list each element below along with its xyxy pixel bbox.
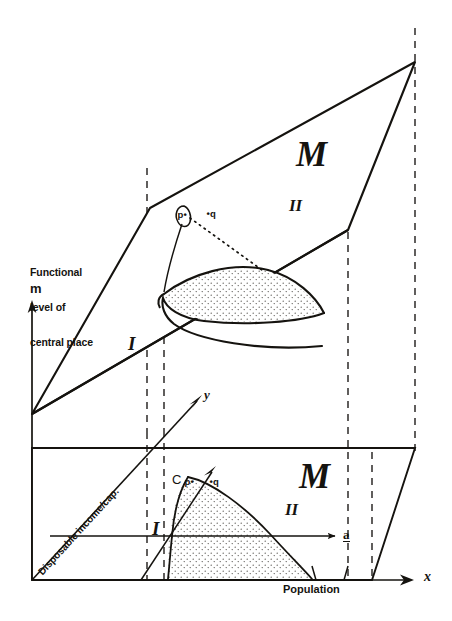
lower-contour-label-C: C xyxy=(172,473,181,488)
m-axis-symbol: m xyxy=(30,282,42,297)
upper-surface-label-M: M xyxy=(296,135,326,174)
m-axis-description: Functional level of central place xyxy=(30,243,93,372)
upper-point-q-label: •q xyxy=(196,198,216,230)
lower-point-q-text: q xyxy=(213,476,219,487)
lower-point-q-label: •q xyxy=(199,466,219,498)
upper-region-label-I: I xyxy=(128,333,135,354)
x-axis-symbol: x xyxy=(424,569,431,585)
upper-region-label-II: II xyxy=(289,196,302,215)
upper-point-p-dot: • xyxy=(183,209,186,220)
vector-a-label: a xyxy=(343,528,350,542)
upper-point-q-text: q xyxy=(210,208,216,219)
lower-surface-label-M: M xyxy=(299,457,329,496)
population-caption: Population xyxy=(283,583,340,595)
figure-root: Functional level of central place m x Po… xyxy=(0,0,452,621)
m-axis-description-line-1: Functional xyxy=(30,267,93,279)
y-axis-symbol: y xyxy=(204,388,210,403)
m-axis-description-line-3: central place xyxy=(30,337,93,349)
lower-region-label-II: II xyxy=(285,500,298,519)
lower-point-p-dot: • xyxy=(190,476,193,487)
upper-point-p-label: p• xyxy=(167,199,187,231)
lower-region-label-I: I xyxy=(152,518,159,539)
m-axis-description-line-2: level of xyxy=(30,302,93,314)
